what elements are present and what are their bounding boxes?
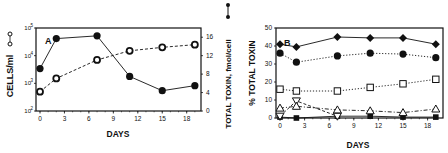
filled-circle-line <box>280 53 436 62</box>
filled-circle-marker <box>191 82 198 89</box>
panel-a: 102103104105 0481216 0369121518 A DAYS C… <box>5 3 233 139</box>
panel-a-markers <box>36 32 198 94</box>
left-tick-exponent: 5 <box>30 23 33 28</box>
panel-a-right-ticks: 0481216 <box>201 33 214 114</box>
y-tick-label: 30 <box>265 60 273 67</box>
filled-circle-marker <box>334 52 341 59</box>
open-circle-marker <box>192 42 198 48</box>
filled-circle-legend-icon <box>226 3 230 19</box>
filled-circle-marker <box>93 32 100 39</box>
filled-diamond-marker <box>366 34 374 42</box>
panel-a-series-lines <box>40 36 195 92</box>
open-circle-marker <box>159 44 165 50</box>
panel-a-left-axis-label: CELLS/ml <box>5 55 15 98</box>
x-tick-label: 0 <box>38 115 42 122</box>
open-inverted-triangle-line <box>280 101 337 116</box>
panel-b: 01020304050 0369121518 B DAYS % TOTAL TO… <box>247 24 443 150</box>
panel-b-x-ticks: 0369121518 <box>278 118 436 129</box>
cells-line <box>40 45 195 92</box>
open-square-marker <box>293 88 299 94</box>
open-circle-marker <box>94 57 100 63</box>
open-triangle-marker <box>432 105 440 112</box>
panel-a-frame <box>36 28 201 111</box>
open-square-marker <box>400 81 406 87</box>
right-tick-label: 4 <box>206 89 210 96</box>
panel-b-y-axis-label: % TOTAL TOXIN <box>247 40 257 106</box>
x-tick-label: 9 <box>352 122 356 129</box>
panel-b-frame <box>276 28 443 118</box>
filled-circle-marker <box>126 73 133 80</box>
open-circle-marker <box>127 48 133 54</box>
filled-diamond-marker <box>292 43 300 51</box>
filled-circle-marker <box>276 50 283 57</box>
filled-circle-marker <box>36 65 43 72</box>
filled-circle-marker <box>53 35 60 42</box>
figure: 102103104105 0481216 0369121518 A DAYS C… <box>0 0 448 153</box>
open-square-line <box>280 79 436 91</box>
open-circle-marker <box>37 89 43 95</box>
x-tick-label: 18 <box>424 122 432 129</box>
x-tick-label: 3 <box>63 115 67 122</box>
filled-diamond-marker <box>333 33 341 41</box>
panel-b-label: B <box>284 38 291 48</box>
right-tick-label: 0 <box>206 107 210 114</box>
y-tick-label: 20 <box>265 78 273 85</box>
open-square-marker <box>277 86 283 92</box>
panel-a-left-ticks: 102103104105 <box>24 23 36 114</box>
filled-diamond-marker <box>432 40 440 48</box>
panel-a-x-ticks: 0369121518 <box>38 111 195 122</box>
left-tick-exponent: 3 <box>30 78 33 83</box>
x-tick-label: 6 <box>87 115 91 122</box>
x-tick-label: 15 <box>399 122 407 129</box>
left-tick-exponent: 4 <box>30 51 33 56</box>
x-tick-label: 0 <box>278 122 282 129</box>
panel-a-x-axis-label: DAYS <box>107 129 130 139</box>
panel-a-label: A <box>45 36 52 46</box>
open-square-marker <box>334 88 340 94</box>
filled-circle-marker <box>432 54 439 61</box>
open-square-marker <box>433 76 439 82</box>
x-tick-label: 12 <box>134 115 142 122</box>
y-tick-label: 40 <box>265 42 273 49</box>
filled-circle-marker <box>293 59 300 66</box>
panel-b-series-lines <box>280 37 436 118</box>
toxin-line <box>40 36 195 91</box>
filled-circle-marker <box>159 87 166 94</box>
right-tick-label: 8 <box>206 70 210 77</box>
filled-diamond-marker <box>276 40 284 48</box>
x-tick-label: 9 <box>112 115 116 122</box>
open-square-marker <box>367 84 373 90</box>
open-circle-legend-icon <box>8 32 12 46</box>
right-tick-label: 16 <box>206 33 214 40</box>
x-tick-label: 15 <box>159 115 167 122</box>
y-tick-label: 0 <box>268 114 272 121</box>
filled-diamond-line <box>280 37 436 47</box>
open-circle-marker <box>53 75 59 81</box>
panel-b-x-axis-label: DAYS <box>347 140 370 150</box>
y-tick-label: 50 <box>265 24 273 31</box>
filled-circle-marker <box>399 51 406 58</box>
filled-diamond-marker <box>399 34 407 42</box>
x-tick-label: 18 <box>183 115 191 122</box>
x-tick-label: 6 <box>327 122 331 129</box>
right-tick-label: 12 <box>206 52 214 59</box>
left-tick-exponent: 2 <box>30 106 33 111</box>
open-triangle-marker <box>292 102 300 109</box>
panel-a-right-axis-label: TOTAL TOXIN, fmol/cell <box>224 39 233 128</box>
y-tick-label: 10 <box>265 96 273 103</box>
panel-b-y-ticks: 01020304050 <box>265 24 276 121</box>
x-tick-label: 3 <box>303 122 307 129</box>
filled-circle-marker <box>367 50 374 57</box>
open-triangle-line <box>280 106 436 112</box>
x-tick-label: 12 <box>375 122 383 129</box>
